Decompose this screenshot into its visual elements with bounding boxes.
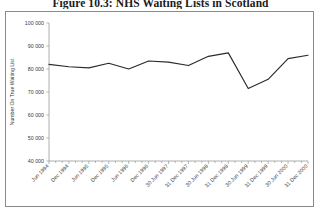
y-tick-label: 40 000 [28, 158, 44, 164]
y-tick-label: 90 000 [28, 43, 44, 49]
figure-title: Figure 10.3: NHS Waiting Lists in Scotla… [0, 0, 321, 9]
x-tick-label: Dec 1995 [89, 163, 109, 183]
x-tick-label: Jun 1994 [30, 163, 50, 183]
y-axis-title: Number On True Waiting List [9, 58, 15, 125]
x-tick-label: Jun 1995 [70, 163, 90, 183]
y-tick-label: 100 000 [25, 20, 44, 26]
x-tick-label: Dec 1994 [49, 163, 69, 183]
data-series-line [49, 53, 308, 89]
x-tick-label: Jun 1996 [110, 163, 130, 183]
y-tick-label: 70 000 [28, 89, 44, 95]
y-tick-label: 50 000 [28, 135, 44, 141]
line-chart-plot: 40 00050 00060 00070 00080 00090 000100 … [6, 12, 313, 206]
y-tick-label: 60 000 [28, 112, 44, 118]
y-tick-label: 80 000 [28, 66, 44, 72]
x-tick-label: Dec 1996 [129, 163, 149, 183]
chart-frame: 40 00050 00060 00070 00080 00090 000100 … [5, 11, 314, 207]
